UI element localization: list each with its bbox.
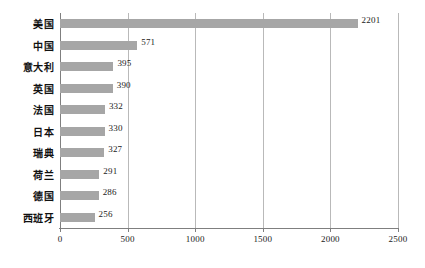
bar-value-label: 256 <box>99 209 113 219</box>
bar-value-label: 390 <box>117 80 131 90</box>
x-axis-line <box>59 228 399 229</box>
x-tick-label: 2500 <box>378 234 418 244</box>
category-label: 意大利 <box>23 59 55 74</box>
category-label: 日本 <box>33 124 54 139</box>
bar-value-label: 571 <box>141 37 155 47</box>
category-label: 法国 <box>33 102 54 117</box>
gridline-x-2500 <box>398 13 399 228</box>
bar-row: 390 <box>60 78 398 100</box>
bar-row: 2201 <box>60 13 398 35</box>
x-tick-0 <box>60 228 61 232</box>
x-tick-label: 1500 <box>243 234 283 244</box>
x-tick-2500 <box>398 228 399 232</box>
category-label: 荷兰 <box>33 167 54 182</box>
x-tick-label: 2000 <box>310 234 350 244</box>
bar <box>60 191 99 200</box>
bar-value-label: 327 <box>108 144 122 154</box>
bar-value-label: 332 <box>109 101 123 111</box>
x-tick-1000 <box>195 228 196 232</box>
category-label: 瑞典 <box>33 145 54 160</box>
bar <box>60 19 358 28</box>
bar-row: 291 <box>60 164 398 186</box>
category-label: 西班牙 <box>23 210 55 225</box>
x-tick-label: 1000 <box>175 234 215 244</box>
bar-row: 395 <box>60 56 398 78</box>
bar-chart-figure: 2201571395390332330327291286256 05001000… <box>0 0 425 268</box>
x-tick-2000 <box>330 228 331 232</box>
bar <box>60 148 104 157</box>
bar-value-label: 330 <box>109 123 123 133</box>
plot-area: 2201571395390332330327291286256 <box>60 13 398 228</box>
category-label: 美国 <box>33 16 54 31</box>
bar-row: 327 <box>60 142 398 164</box>
bar-row: 571 <box>60 35 398 57</box>
category-label: 英国 <box>33 81 54 96</box>
bar-row: 286 <box>60 185 398 207</box>
category-label: 德国 <box>33 188 54 203</box>
x-tick-1500 <box>263 228 264 232</box>
bar <box>60 213 95 222</box>
bar <box>60 41 137 50</box>
x-tick-label: 500 <box>108 234 148 244</box>
bar <box>60 84 113 93</box>
bar-row: 330 <box>60 121 398 143</box>
bar <box>60 127 105 136</box>
bar <box>60 62 113 71</box>
bar-value-label: 286 <box>103 187 117 197</box>
x-tick-label: 0 <box>40 234 80 244</box>
bar-row: 332 <box>60 99 398 121</box>
bar-row: 256 <box>60 207 398 229</box>
bar-value-label: 395 <box>117 58 131 68</box>
bar <box>60 105 105 114</box>
bar-value-label: 291 <box>103 166 117 176</box>
bar <box>60 170 99 179</box>
category-label: 中国 <box>33 38 54 53</box>
bar-value-label: 2201 <box>362 15 381 25</box>
x-tick-500 <box>128 228 129 232</box>
